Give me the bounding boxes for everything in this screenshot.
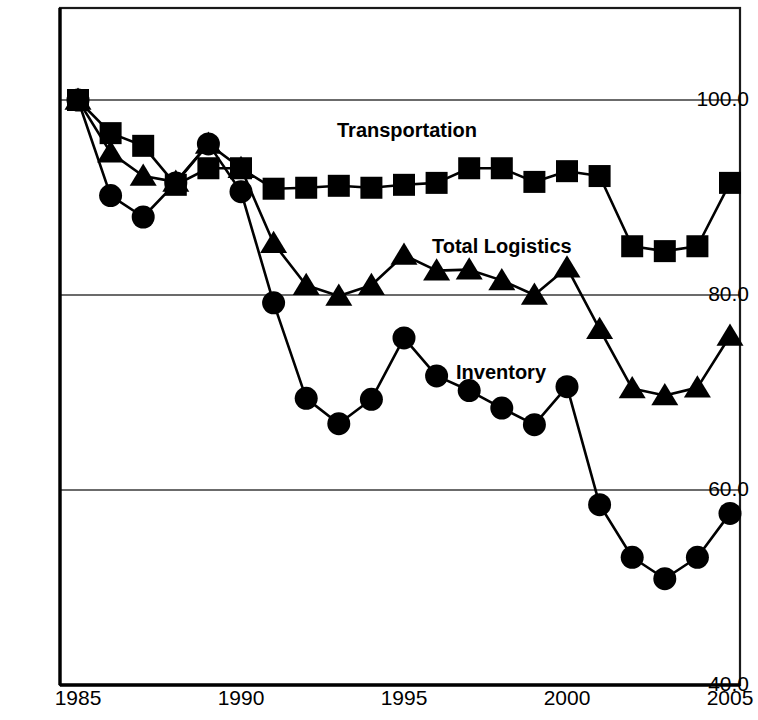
x-tick-label-1985: 1985 xyxy=(38,686,118,710)
data-point-transportation-2005 xyxy=(719,172,741,194)
y-tick-label-100: 100.0 xyxy=(693,87,749,111)
data-point-transportation-1989 xyxy=(197,157,219,179)
data-point-inventory-1994 xyxy=(360,388,383,411)
data-point-inventory-1995 xyxy=(393,326,416,349)
x-tick-label-1995: 1995 xyxy=(364,686,444,710)
x-tick-label-2000: 2000 xyxy=(527,686,607,710)
data-point-inventory-2003 xyxy=(653,567,676,590)
data-point-transportation-2001 xyxy=(589,165,611,187)
data-point-transportation-2000 xyxy=(556,160,578,182)
series-label-inventory: Inventory xyxy=(456,361,546,384)
data-point-total-logistics-1998 xyxy=(488,268,515,290)
data-point-inventory-2001 xyxy=(588,493,611,516)
y-tick-label-60: 60.0 xyxy=(693,477,749,501)
data-point-inventory-1993 xyxy=(327,412,350,435)
data-point-inventory-1990 xyxy=(230,180,253,203)
data-point-transportation-1997 xyxy=(458,157,480,179)
data-point-inventory-1988 xyxy=(164,171,187,194)
data-point-inventory-2004 xyxy=(686,546,709,569)
series-label-transportation: Transportation xyxy=(337,119,477,142)
data-point-transportation-1995 xyxy=(393,174,415,196)
data-point-total-logistics-1987 xyxy=(130,164,157,186)
data-point-inventory-1991 xyxy=(262,291,285,314)
data-point-inventory-1999 xyxy=(523,413,546,436)
data-point-inventory-1998 xyxy=(490,397,513,420)
data-point-inventory-2000 xyxy=(556,375,579,398)
series-markers xyxy=(65,88,744,591)
data-point-transportation-2003 xyxy=(654,240,676,262)
data-point-inventory-1986 xyxy=(99,184,122,207)
data-point-inventory-1989 xyxy=(197,132,220,155)
data-point-total-logistics-2001 xyxy=(586,317,613,339)
data-point-total-logistics-2004 xyxy=(684,375,711,397)
data-point-inventory-1985 xyxy=(67,89,90,112)
data-point-transportation-1999 xyxy=(523,171,545,193)
x-tick-label-2005: 2005 xyxy=(690,686,758,710)
data-point-transportation-1994 xyxy=(360,177,382,199)
data-point-total-logistics-1997 xyxy=(456,257,483,279)
data-point-inventory-1992 xyxy=(295,387,318,410)
data-point-inventory-2002 xyxy=(621,546,644,569)
data-point-transportation-1992 xyxy=(295,177,317,199)
data-point-total-logistics-2000 xyxy=(554,255,581,277)
y-tick-label-80: 80.0 xyxy=(693,282,749,306)
data-point-transportation-1987 xyxy=(132,135,154,157)
data-point-total-logistics-2002 xyxy=(619,376,646,398)
data-point-transportation-1993 xyxy=(328,175,350,197)
data-point-transportation-1991 xyxy=(263,178,285,200)
data-point-transportation-1998 xyxy=(491,157,513,179)
data-point-transportation-2004 xyxy=(686,235,708,257)
data-point-transportation-2002 xyxy=(621,235,643,257)
data-point-total-logistics-1992 xyxy=(293,273,320,295)
data-point-transportation-1996 xyxy=(426,172,448,194)
data-point-total-logistics-1995 xyxy=(391,243,418,265)
data-point-inventory-1996 xyxy=(425,364,448,387)
x-tick-label-1990: 1990 xyxy=(201,686,281,710)
gridlines xyxy=(60,100,740,490)
series-label-total-logistics: Total Logistics xyxy=(432,235,572,258)
data-point-inventory-2005 xyxy=(719,502,742,525)
data-point-inventory-1987 xyxy=(132,206,155,229)
data-point-total-logistics-1991 xyxy=(260,231,287,253)
